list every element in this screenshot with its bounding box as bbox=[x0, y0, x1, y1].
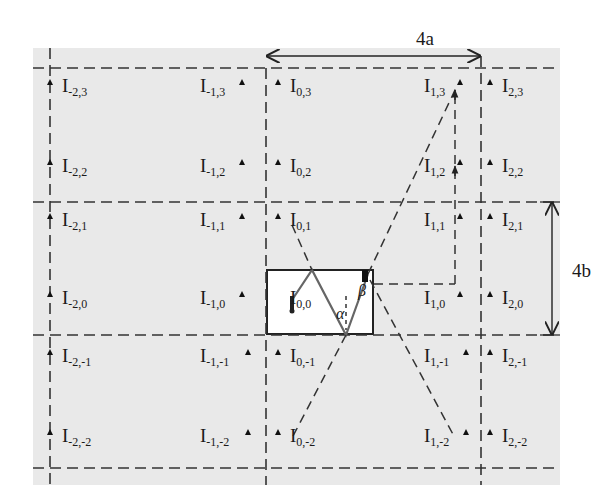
beta-label: β bbox=[358, 283, 366, 299]
image-source-label: I0,2 bbox=[290, 156, 311, 175]
image-source-label: I-1,-2 bbox=[200, 426, 229, 445]
image-source-label: I-1,-1 bbox=[200, 346, 229, 365]
width-label: 4a bbox=[416, 28, 434, 50]
image-source-marker-icon bbox=[487, 349, 493, 355]
image-source-marker-icon bbox=[275, 79, 281, 85]
grid-lines bbox=[33, 48, 560, 485]
image-source-marker-icon bbox=[463, 429, 469, 435]
image-source-marker-icon bbox=[457, 79, 463, 85]
image-source-label: I0,1 bbox=[290, 210, 311, 229]
image-markers bbox=[47, 79, 493, 435]
image-source-label: I1,-1 bbox=[424, 346, 449, 365]
image-source-marker-icon bbox=[275, 159, 281, 165]
image-source-marker-icon bbox=[275, 429, 281, 435]
image-source-label: I2,-1 bbox=[502, 346, 527, 365]
image-source-label: I-2,2 bbox=[62, 156, 87, 175]
image-source-marker-icon bbox=[457, 213, 463, 219]
image-source-marker-icon bbox=[47, 79, 53, 85]
image-source-label: I-1,3 bbox=[200, 76, 225, 95]
image-source-marker-icon bbox=[239, 79, 245, 85]
image-source-label: I-2,-2 bbox=[62, 426, 91, 445]
image-source-marker-icon bbox=[47, 159, 53, 165]
image-rays bbox=[292, 88, 456, 438]
image-source-label: I-2,3 bbox=[62, 76, 87, 95]
image-source-marker-icon bbox=[487, 79, 493, 85]
image-source-marker-icon bbox=[487, 291, 493, 297]
alpha-label: α bbox=[336, 306, 344, 322]
image-source-label: I1,3 bbox=[424, 76, 445, 95]
image-source-label: I1,0 bbox=[424, 288, 445, 307]
image-source-marker-icon bbox=[463, 349, 469, 355]
receiver-marker bbox=[362, 270, 368, 282]
image-source-label: I1,1 bbox=[424, 210, 445, 229]
image-source-marker-icon bbox=[239, 213, 245, 219]
image-source-marker-icon bbox=[487, 429, 493, 435]
image-source-label: I-2,0 bbox=[62, 288, 87, 307]
image-source-marker-icon bbox=[275, 213, 281, 219]
image-source-marker-icon bbox=[47, 349, 53, 355]
image-source-marker-icon bbox=[239, 291, 245, 297]
image-source-label: I0,-2 bbox=[290, 426, 315, 445]
image-source-label: I1,-2 bbox=[424, 426, 449, 445]
image-source-label: I2,0 bbox=[502, 288, 523, 307]
height-label: 4b bbox=[572, 260, 591, 282]
image-source-marker-icon bbox=[47, 429, 53, 435]
image-source-label: I2,1 bbox=[502, 210, 523, 229]
image-source-marker-icon bbox=[245, 349, 251, 355]
image-source-label: I0,0 bbox=[290, 288, 311, 307]
image-source-marker-icon bbox=[457, 159, 463, 165]
image-source-label: I0,-1 bbox=[290, 346, 315, 365]
image-source-label: I-2,1 bbox=[62, 210, 87, 229]
image-source-label: I-1,0 bbox=[200, 288, 225, 307]
image-source-label: I2,2 bbox=[502, 156, 523, 175]
image-source-marker-icon bbox=[47, 213, 53, 219]
image-source-diagram: 4a 4b α β I-2,3I-1,3I0,3I1,3I2,3I-2,2I-1… bbox=[0, 0, 612, 504]
image-source-marker-icon bbox=[275, 349, 281, 355]
image-source-marker-icon bbox=[239, 159, 245, 165]
image-source-marker-icon bbox=[47, 291, 53, 297]
image-source-marker-icon bbox=[487, 213, 493, 219]
image-source-marker-icon bbox=[457, 291, 463, 297]
image-source-label: I-1,2 bbox=[200, 156, 225, 175]
image-source-label: I2,-2 bbox=[502, 426, 527, 445]
image-source-label: I1,2 bbox=[424, 156, 445, 175]
image-source-label: I0,3 bbox=[290, 76, 311, 95]
image-source-label: I-1,1 bbox=[200, 210, 225, 229]
image-source-label: I2,3 bbox=[502, 76, 523, 95]
image-source-marker-icon bbox=[245, 429, 251, 435]
image-source-label: I-2,-1 bbox=[62, 346, 91, 365]
image-source-marker-icon bbox=[487, 159, 493, 165]
